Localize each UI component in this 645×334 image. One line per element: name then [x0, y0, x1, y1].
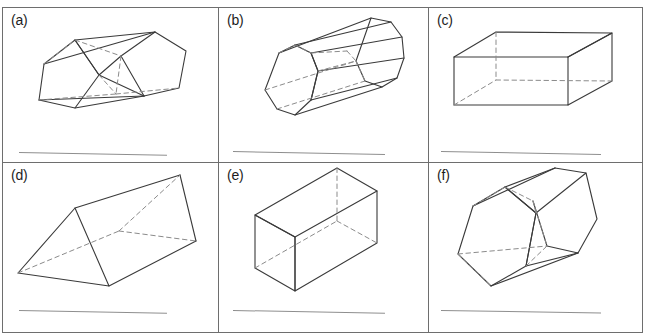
panel-grid: (a) [2, 7, 643, 333]
octagonal-prism-figure [219, 8, 428, 162]
worksheet-page: (a) [0, 0, 645, 334]
panel-f: (f) [429, 163, 642, 332]
rectangular-prism-figure [429, 8, 642, 162]
panel-c: (c) [429, 8, 642, 163]
panel-a: (a) [3, 8, 219, 163]
panel-d: (d) [3, 163, 219, 332]
rectangular-prism-isometric-figure [219, 163, 428, 332]
pentagonal-prism-figure [3, 8, 218, 162]
panel-e: (e) [219, 163, 429, 332]
hexagonal-prism-figure [429, 163, 642, 332]
clipped-header-text [0, 0, 645, 7]
panel-b: (b) [219, 8, 429, 163]
triangular-prism-figure [3, 163, 218, 332]
